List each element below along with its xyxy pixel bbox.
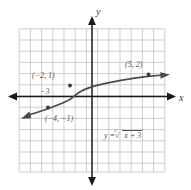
x-intercept-tick-label: −3 bbox=[40, 87, 49, 96]
radicand: x + 3 bbox=[122, 130, 142, 140]
point-label-5-2: (5, 2) bbox=[125, 60, 142, 69]
radical-symbol: 3√x + 3 bbox=[115, 131, 142, 140]
y-axis-label: y bbox=[96, 6, 100, 17]
point-label-neg2-1: (−2, 1) bbox=[32, 71, 55, 80]
coordinate-plane bbox=[0, 0, 191, 190]
graph-figure: y x (−2, 1) −3 (−4, −1) (5, 2) y =3√x + … bbox=[0, 0, 191, 190]
y-axis bbox=[88, 16, 96, 186]
point-label-neg4-neg1: (−4, −1) bbox=[45, 114, 73, 123]
radical-index: 3 bbox=[114, 128, 117, 133]
x-axis-label: x bbox=[179, 92, 183, 103]
equation-label: y =3√x + 3 bbox=[104, 131, 142, 140]
